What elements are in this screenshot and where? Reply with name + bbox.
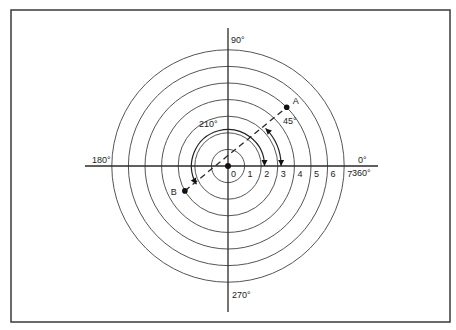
point-a — [284, 105, 290, 111]
label-0-deg: 0° — [358, 155, 367, 165]
radial-tick-2: 2 — [264, 169, 269, 179]
point-b — [182, 188, 188, 194]
point-label-b: B — [171, 187, 177, 197]
radial-tick-4: 4 — [297, 169, 302, 179]
polar-coordinate-diagram: 90° 180° 0° 360° 270° 01234567 45°210° A… — [0, 0, 456, 330]
radial-tick-3: 3 — [281, 169, 286, 179]
radial-tick-6: 6 — [331, 169, 336, 179]
origin-point — [225, 163, 231, 169]
arc-label-45: 45° — [283, 116, 297, 126]
radial-tick-labels: 01234567 — [231, 169, 352, 179]
radial-tick-5: 5 — [314, 169, 319, 179]
arc-label-210: 210° — [199, 119, 218, 129]
radial-tick-0: 0 — [231, 169, 236, 179]
label-360-deg: 360° — [352, 168, 371, 178]
point-label-a: A — [293, 96, 299, 106]
radial-tick-7: 7 — [347, 169, 352, 179]
radial-tick-1: 1 — [248, 169, 253, 179]
arrowhead-icon — [262, 160, 268, 166]
label-180-deg: 180° — [92, 155, 111, 165]
label-90-deg: 90° — [231, 35, 245, 45]
arrowhead-icon — [278, 160, 284, 166]
label-270-deg: 270° — [232, 290, 251, 300]
